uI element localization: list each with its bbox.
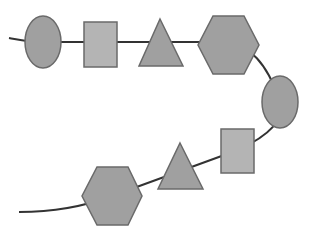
square-2-shape	[221, 129, 254, 173]
shape-chain-diagram	[0, 0, 309, 229]
shapes-group	[25, 16, 298, 225]
ellipse-1-shape	[25, 16, 61, 68]
ellipse-2-shape	[262, 76, 298, 128]
square-1-shape	[84, 22, 117, 67]
hexagon-1-shape	[198, 16, 259, 74]
hexagon-2-shape	[82, 167, 142, 225]
diagram-svg	[0, 0, 309, 229]
